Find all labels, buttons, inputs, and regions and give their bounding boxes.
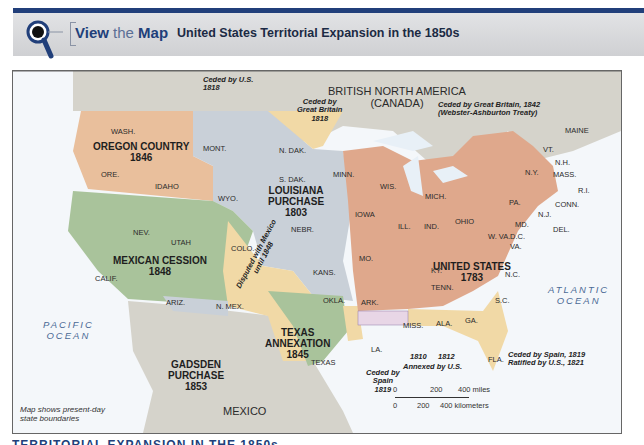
state-label: LA. [371,346,382,354]
state-label: ALA. [436,320,452,328]
scale-km-200: 200 [417,401,430,410]
state-label: OKLA. [323,297,345,305]
scale-km-400: 400 kilometers [440,401,489,410]
state-label: UTAH [171,239,191,247]
annotation-florida-ceded: Ceded by Spain, 1819Ratified by U.S., 18… [508,351,585,368]
region-louisiana-purchase: LOUISIANAPURCHASE1803 [268,185,324,218]
state-label: MISS. [403,322,423,330]
state-label: ORE. [101,171,119,179]
state-label: IDAHO [155,183,179,191]
region-texas-annexation: TEXASANNEXATION1845 [265,327,330,360]
state-label: PA. [509,199,521,207]
scale-miles-0: 0 [393,385,397,394]
state-label: WIS. [380,183,396,191]
map-title: United States Territorial Expansion in t… [177,26,460,40]
state-label: FLA. [488,356,504,364]
state-label: IND. [424,223,439,231]
state-label: TENN. [431,284,454,292]
state-label: N. DAK. [279,147,306,155]
state-label: WYO. [218,195,238,203]
state-label: NEV. [133,229,150,237]
state-label: MO. [359,255,373,263]
state-label: N.C. [505,271,520,279]
state-label: KY. [431,267,442,275]
section-heading-cutoff: TERRITORIAL EXPANSION IN THE 1850s [12,438,279,445]
state-label: N.H. [555,159,570,167]
state-label: ARIZ. [166,299,185,307]
territorial-expansion-map: BRITISH NORTH AMERICA(CANADA) MEXICO PAC… [12,70,622,434]
state-label: N.Y. [525,169,539,177]
view-the-map-header: View the Map United States Territorial E… [13,8,644,56]
state-label: MICH. [425,193,446,201]
state-label: CONN. [555,201,579,209]
state-label: MAINE [565,127,589,135]
state-label: GA. [465,317,478,325]
map-word: Map [138,24,168,41]
state-label: WASH. [111,128,135,136]
annotation-ceded-gb-1818: Ceded byGreat Britain1818 [297,98,342,123]
state-label: ARK. [361,299,379,307]
pacific-ocean-label: PACIFICOCEAN [43,319,94,342]
state-label: OHIO [455,218,474,226]
magnifier-icon [23,18,63,62]
state-label: NEBR. [291,226,314,234]
state-label: S.C. [495,297,510,305]
annotation-1810: 1810 [410,353,427,361]
region-mexican-cession: MEXICAN CESSION1848 [113,255,207,277]
state-label: R.I. [578,187,590,195]
scale-miles-400: 400 miles [458,385,490,394]
state-label: TEXAS [311,359,336,367]
state-label: D.C. [510,233,525,241]
annotation-annexed-by-us: Annexed by U.S. [403,363,462,371]
state-label: DEL. [553,226,570,234]
scale-km-0: 0 [393,401,397,410]
region-gadsden-purchase: GADSDENPURCHASE1853 [168,359,224,392]
state-label: CALIF. [95,275,118,283]
the-word: the [109,24,138,41]
view-the-map-label: View the Map [75,24,168,41]
mexico-label: MEXICO [223,405,266,417]
scale-line [395,397,469,398]
map-graphic [13,71,621,433]
annotation-1812: 1812 [438,353,455,361]
view-word: View [75,24,109,41]
annotation-ceded-gb-1842: Ceded by Great Britain, 1842(Webster-Ash… [438,101,540,118]
state-label: ILL. [398,223,411,231]
state-label: W. VA. [488,233,510,241]
atlantic-ocean-label: ATLANTICOCEAN [548,284,609,307]
state-label: MD. [515,221,529,229]
state-label: VT. [543,146,554,154]
state-label: KANS. [313,269,336,277]
state-label: N. MEX. [216,303,244,311]
state-label: MONT. [203,145,226,153]
state-label: IOWA [355,211,375,219]
state-label: S. DAK. [279,176,306,184]
state-label: MASS. [553,171,576,179]
state-label: N.J. [538,211,551,219]
state-label: MINN. [333,171,354,179]
region-united-states: UNITED STATES1783 [433,261,511,283]
map-note: Map shows present-daystate boundaries [20,406,105,424]
state-label: VA. [510,243,522,251]
annotation-ceded-us-1818: Ceded by U.S.1818 [203,76,253,93]
region-oregon-country: OREGON COUNTRY1846 [93,141,189,163]
scale-miles-200: 200 [430,385,443,394]
